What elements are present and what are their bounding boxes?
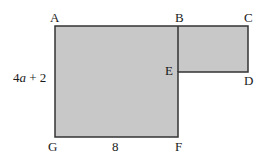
vertex-label-e: E: [165, 64, 173, 77]
dimension-label-left-side: 4a + 2: [13, 71, 46, 84]
vertex-label-a: A: [50, 11, 59, 24]
vertex-label-c: C: [244, 11, 253, 24]
vertex-label-f: F: [175, 140, 182, 153]
vertex-label-d: D: [244, 74, 253, 87]
vertex-label-g: G: [48, 140, 57, 153]
geometry-figure-page: A B C D E F G 4a + 2 8: [0, 0, 265, 161]
shaded-polygon: [55, 26, 248, 137]
dimension-label-bottom-side: 8: [112, 140, 119, 153]
dimension-suffix: + 2: [26, 70, 46, 85]
vertex-label-b: B: [175, 11, 184, 24]
